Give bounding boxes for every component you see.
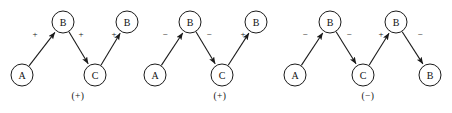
node-label: B <box>427 70 434 81</box>
edge-sign-label: − <box>206 29 211 39</box>
node-label: A <box>151 70 159 81</box>
graph-node: A <box>284 64 306 86</box>
graph-node: B <box>245 11 267 33</box>
edge-sign-label: + <box>78 29 83 39</box>
node-label: C <box>219 70 226 81</box>
node-label: B <box>253 17 260 28</box>
graph-node: B <box>385 11 407 33</box>
diagram-result-label: (+) <box>214 91 227 102</box>
graph-node: B <box>116 11 138 33</box>
edge-sign-label: + <box>240 29 245 39</box>
edge-sign-label: + <box>32 29 37 39</box>
node-label: B <box>60 17 67 28</box>
graph-node: C <box>84 64 106 86</box>
graph-node: A <box>11 64 33 86</box>
edges-layer <box>29 32 423 66</box>
node-label: B <box>393 17 400 28</box>
edge-sign-label: + <box>111 29 116 39</box>
edge-sign-label: − <box>162 29 167 39</box>
graph-node: B <box>179 11 201 33</box>
edge-sign-label: + <box>378 29 383 39</box>
edge-sign-label: − <box>417 29 422 39</box>
node-label: B <box>187 17 194 28</box>
edge-sign-label: − <box>302 29 307 39</box>
diagram-result-label: (−) <box>362 91 375 102</box>
graph-node: B <box>319 11 341 33</box>
graph-node: C <box>352 64 374 86</box>
graph-node: B <box>52 11 74 33</box>
node-label: B <box>124 17 131 28</box>
node-label: A <box>18 70 26 81</box>
node-label: C <box>92 70 99 81</box>
node-label: B <box>327 17 334 28</box>
nodes-layer: ABCBABCBABCBB <box>11 11 441 86</box>
edge-sign-label: − <box>346 29 351 39</box>
edge-arrow-d2-n3-to-d2-n4 <box>228 33 249 65</box>
diagram-result-label: (+) <box>72 91 85 102</box>
signed-digraph-figure: ABCBABCBABCBB +++−−+−−+− (+)(+)(−) <box>0 0 452 113</box>
results-layer: (+)(+)(−) <box>72 91 375 102</box>
signs-layer: +++−−+−−+− <box>32 29 422 39</box>
graph-node: A <box>144 64 166 86</box>
node-label: A <box>291 70 299 81</box>
graph-canvas: ABCBABCBABCBB +++−−+−−+− (+)(+)(−) <box>0 0 452 113</box>
graph-node: B <box>419 64 441 86</box>
node-label: C <box>360 70 367 81</box>
graph-node: C <box>211 64 233 86</box>
